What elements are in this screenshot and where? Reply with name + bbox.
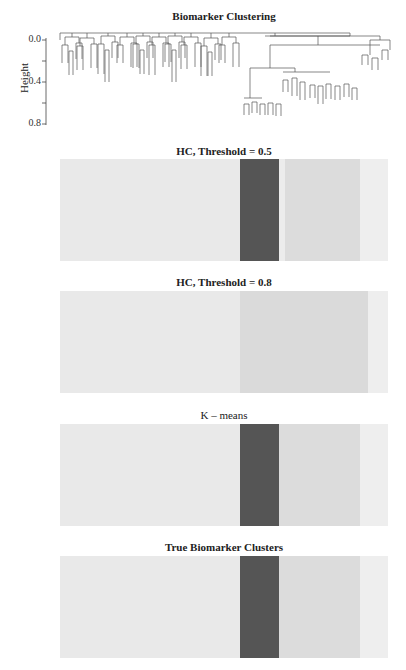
panel-title-hc-08: HC, Threshold = 0.8: [60, 276, 388, 288]
cluster-segment: [240, 291, 368, 393]
panel-title-hc-05: HC, Threshold = 0.5: [60, 145, 388, 157]
cluster-segment: [360, 424, 388, 526]
cluster-segment: [279, 424, 360, 526]
cluster-segment: [60, 159, 240, 261]
dendrogram-plot: [0, 0, 406, 135]
cluster-segment: [240, 159, 279, 261]
dendrogram-branches: [60, 33, 390, 116]
cluster-segment: [368, 291, 388, 393]
cluster-strip-hc-05: [60, 159, 388, 261]
cluster-segment: [240, 556, 279, 658]
y-axis: [42, 38, 46, 125]
cluster-segment: [360, 159, 388, 261]
cluster-segment: [285, 159, 360, 261]
cluster-segment: [60, 424, 240, 526]
panel-title-true-clusters: True Biomarker Clusters: [60, 541, 388, 553]
cluster-segment: [60, 291, 240, 393]
cluster-segment: [240, 424, 279, 526]
cluster-strip-hc-08: [60, 291, 388, 393]
cluster-segment: [360, 556, 388, 658]
cluster-segment: [279, 556, 360, 658]
cluster-strip-true-clusters: [60, 556, 388, 658]
cluster-segment: [60, 556, 240, 658]
cluster-strip-kmeans: [60, 424, 388, 526]
panel-title-kmeans: K – means: [60, 409, 388, 421]
